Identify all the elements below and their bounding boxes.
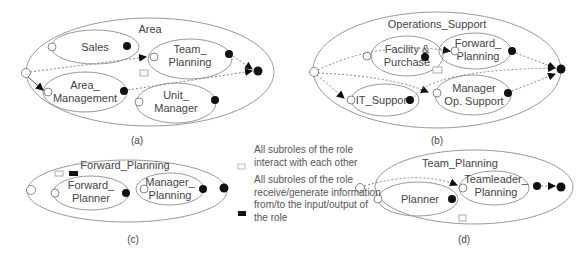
subrole-label: Planning (475, 186, 518, 198)
interaction-box-icon (140, 70, 148, 76)
subrole-label: IT_Support (356, 94, 410, 106)
role-title: Area (138, 23, 162, 35)
subrole-label: Area_ (70, 79, 100, 91)
role-title: Team_Planning (422, 157, 498, 169)
subrole-label: Planner (72, 192, 110, 204)
subrole-label: Unit_ (163, 89, 190, 101)
subrole-label: Forward_ (455, 37, 502, 49)
subrole-label: Sales (81, 41, 109, 53)
output-port-icon (421, 53, 429, 61)
input-port-icon (44, 88, 52, 96)
subrole-label: Manager_ (145, 176, 195, 188)
subrole-label: Planning (149, 189, 192, 201)
subrole-label: Team_ (173, 43, 207, 55)
role-output-port-icon (557, 183, 566, 192)
input-port-icon (140, 185, 148, 193)
interaction-box-icon (433, 67, 442, 73)
interaction-box-icon (459, 215, 466, 221)
output-port-icon (123, 42, 131, 50)
subrole-label: Teamleader_ (464, 173, 528, 185)
legend-black-box-icon (238, 211, 246, 216)
output-port-icon (448, 195, 456, 203)
input-port-icon (48, 43, 56, 51)
subrole-label: Management (53, 92, 117, 104)
caption: (b) (431, 135, 443, 146)
subrole-label: Manager (154, 102, 198, 114)
legend-white-box-icon (238, 164, 245, 169)
caption: (c) (127, 234, 139, 245)
legend: All subroles of the role interact with e… (254, 144, 384, 229)
input-port-icon (51, 189, 59, 197)
role-input-port-icon (22, 69, 31, 78)
role-output-port-icon (557, 65, 566, 74)
subrole-label: Planning (457, 50, 500, 62)
output-port-icon (533, 182, 541, 190)
output-port-icon (508, 47, 516, 55)
subrole-label: Op. Support (444, 95, 503, 107)
output-port-icon (122, 189, 130, 197)
role-title: Forward_Planning (80, 159, 169, 171)
io-box-icon (69, 171, 78, 176)
subrole-label: Forward_ (68, 179, 115, 191)
diagram-b: Operations_Support Facility & Purchase F… (310, 12, 566, 146)
input-port-icon (459, 184, 467, 192)
diagram-c: Forward_Planning Forward_ Planner Manage… (27, 159, 229, 245)
role-input-port-icon (27, 186, 36, 195)
input-port-icon (347, 96, 355, 104)
diagram-a: Area Sales Team_ Planning Area_ Manageme… (22, 18, 275, 146)
interaction-box-icon (55, 171, 63, 176)
output-port-icon (406, 96, 414, 104)
role-output-port-icon (254, 67, 263, 76)
output-port-icon (211, 96, 219, 104)
input-port-icon (135, 98, 143, 106)
output-port-icon (504, 89, 512, 97)
input-port-icon (150, 53, 158, 61)
role-output-port-icon (220, 184, 229, 193)
output-port-icon (225, 50, 233, 58)
diagram-d: Team_Planning Planner Teamleader_ Planni… (356, 150, 574, 245)
legend-item-interaction: All subroles of the role interact with e… (254, 144, 384, 169)
role-title: Operations_Support (388, 18, 486, 30)
output-port-icon (120, 87, 128, 95)
output-port-icon (199, 185, 207, 193)
input-port-icon (451, 47, 459, 55)
subrole-label: Planning (169, 56, 212, 68)
subrole-label: Manager (452, 82, 496, 94)
caption: (a) (131, 135, 143, 146)
subrole-label: Planner (401, 193, 439, 205)
legend-item-io: All subroles of the role receive/generat… (254, 174, 384, 224)
input-port-icon (433, 89, 441, 97)
caption: (d) (458, 234, 470, 245)
